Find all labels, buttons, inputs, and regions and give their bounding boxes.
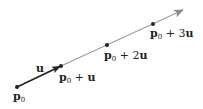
diagram-graphics xyxy=(0,0,203,109)
label-p0-plus-2u: p0 + 2u xyxy=(104,50,147,63)
point-p0-plus-2u xyxy=(105,43,109,47)
label-p0-plus-3u: p0 + 3u xyxy=(150,28,193,41)
label-u: u xyxy=(36,63,44,74)
point-p0-plus-u xyxy=(59,64,63,68)
point-p0-plus-3u xyxy=(151,22,155,26)
parametric-line-diagram: u p0 p0 + u p0 + 2u p0 + 3u xyxy=(0,0,203,109)
label-p0-plus-u: p0 + u xyxy=(59,72,95,85)
point-p0 xyxy=(15,85,19,89)
label-p0: p0 xyxy=(13,91,25,104)
